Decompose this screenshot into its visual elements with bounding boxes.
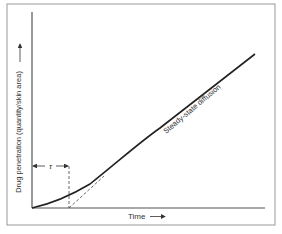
- y-axis-label: Drug penetration (quantity/skin area): [14, 71, 23, 193]
- x-axis-label: Time: [128, 212, 146, 221]
- chart: τ Steady-state diffusion Time Drug penet…: [0, 0, 282, 234]
- penetration-curve: [32, 54, 255, 208]
- figure-frame: [7, 4, 275, 225]
- tau-label: τ: [49, 162, 53, 171]
- steady-state-label: Steady-state diffusion: [162, 82, 223, 135]
